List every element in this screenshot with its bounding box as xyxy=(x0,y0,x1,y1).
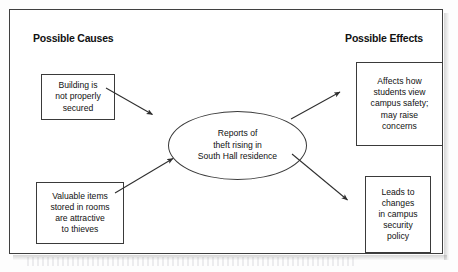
diagram-frame: Possible Causes Possible Effects Buildin… xyxy=(9,9,443,254)
panel-shadow-right xyxy=(444,13,449,260)
effect-node-affects-student-view: Affects how students view campus safety;… xyxy=(356,62,443,146)
column-header-possible-causes: Possible Causes xyxy=(33,32,113,44)
scan-artifact-smudge xyxy=(27,257,357,266)
column-header-possible-effects: Possible Effects xyxy=(345,32,423,44)
cause-node-valuable-items: Valuable items stored in rooms are attra… xyxy=(36,182,124,244)
cause-node-building-not-secured: Building is not properly secured xyxy=(41,74,115,120)
effect-node-security-policy-changes: Leads to changes in campus security poli… xyxy=(365,176,431,253)
diagram-canvas: Possible Causes Possible Effects Buildin… xyxy=(0,0,458,272)
central-node-reports-of-theft: Reports of theft rising in South Hall re… xyxy=(168,111,307,180)
